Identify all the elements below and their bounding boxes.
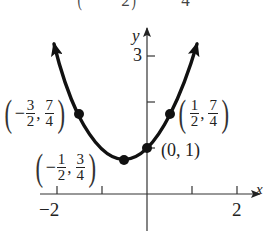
x-tick-label-2: 2 bbox=[232, 200, 242, 219]
point-vertex bbox=[119, 155, 129, 165]
x-axis-label: x bbox=[256, 182, 263, 197]
point-y-intercept bbox=[142, 143, 152, 153]
x-tick-label-neg2: −2 bbox=[39, 200, 59, 219]
formula-denominator: 2 bbox=[121, 0, 130, 10]
formula-left-paren: ( bbox=[77, 0, 81, 10]
formula-fragment: (2)4 bbox=[76, 0, 190, 10]
point-neg-three-halves bbox=[74, 109, 84, 119]
point-one-half bbox=[165, 109, 175, 119]
formula-right-paren: ) bbox=[131, 0, 135, 10]
point-label-y-intercept: (0, 1) bbox=[161, 141, 200, 159]
y-ticks bbox=[147, 56, 155, 148]
point-label-one-half: ( 12 , 74 ) bbox=[176, 94, 232, 132]
y-tick-label-3: 3 bbox=[133, 46, 142, 64]
formula-constant-denominator: 4 bbox=[181, 0, 190, 10]
y-axis-label: y bbox=[132, 27, 140, 44]
point-label-neg-three-halves: ( − 32 , 74 ) bbox=[2, 94, 68, 132]
point-label-vertex: ( − 12 , 34 ) bbox=[33, 148, 99, 186]
